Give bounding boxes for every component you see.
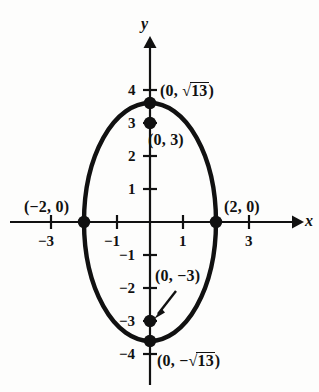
y-tick-label-3: 3 bbox=[128, 116, 136, 131]
point-left-vertex bbox=[78, 216, 90, 228]
y-tick-label-2: 2 bbox=[128, 149, 136, 164]
label-top-vertex-prefix: (0, bbox=[160, 82, 182, 99]
y-axis-label: y bbox=[141, 16, 148, 32]
y-axis bbox=[144, 36, 157, 385]
x-tick-label-3: 3 bbox=[245, 234, 253, 249]
x-axis bbox=[10, 216, 304, 229]
point-top-vertex bbox=[144, 97, 156, 109]
y-tick-label-4: 4 bbox=[128, 83, 136, 98]
point-upper-focus bbox=[144, 117, 156, 129]
y-tick-label-minus-3: −3 bbox=[119, 314, 135, 329]
point-right-vertex bbox=[210, 216, 222, 228]
label-top-vertex-suffix: ) bbox=[209, 82, 215, 99]
ellipse-graph-figure: y x −3 −1 1 3 4 3 2 1 −1 −2 −3 −4 (0, √1… bbox=[0, 0, 319, 392]
annotation-arrow-lower-focus bbox=[154, 291, 176, 319]
label-bottom-vertex-prefix: (0, − bbox=[157, 352, 188, 369]
point-lower-focus bbox=[144, 315, 156, 327]
y-tick-label-minus-4: −4 bbox=[119, 347, 135, 362]
y-tick-label-1: 1 bbox=[128, 182, 136, 197]
label-lower-focus: (0, −3) bbox=[155, 268, 200, 284]
label-bottom-vertex: (0, −√13) bbox=[157, 352, 220, 369]
plot-canvas bbox=[0, 0, 319, 392]
label-upper-focus: (0, 3) bbox=[148, 132, 184, 148]
label-left-vertex: (−2, 0) bbox=[24, 199, 69, 215]
x-tick-label-1: 1 bbox=[179, 234, 187, 249]
label-right-vertex: (2, 0) bbox=[224, 199, 260, 215]
x-tick-label-minus-1: −1 bbox=[104, 234, 120, 249]
label-bottom-vertex-suffix: ) bbox=[215, 352, 221, 369]
sqrt-icon: √13 bbox=[188, 352, 214, 369]
x-tick-label-minus-3: −3 bbox=[38, 234, 54, 249]
x-axis-label: x bbox=[305, 213, 313, 229]
radicand-13: 13 bbox=[196, 352, 214, 369]
point-bottom-vertex bbox=[144, 335, 156, 347]
label-top-vertex: (0, √13) bbox=[160, 82, 214, 99]
y-tick-label-minus-1: −1 bbox=[119, 248, 135, 263]
radicand-13: 13 bbox=[190, 82, 208, 99]
y-tick-label-minus-2: −2 bbox=[119, 281, 135, 296]
sqrt-icon: √13 bbox=[182, 82, 208, 99]
